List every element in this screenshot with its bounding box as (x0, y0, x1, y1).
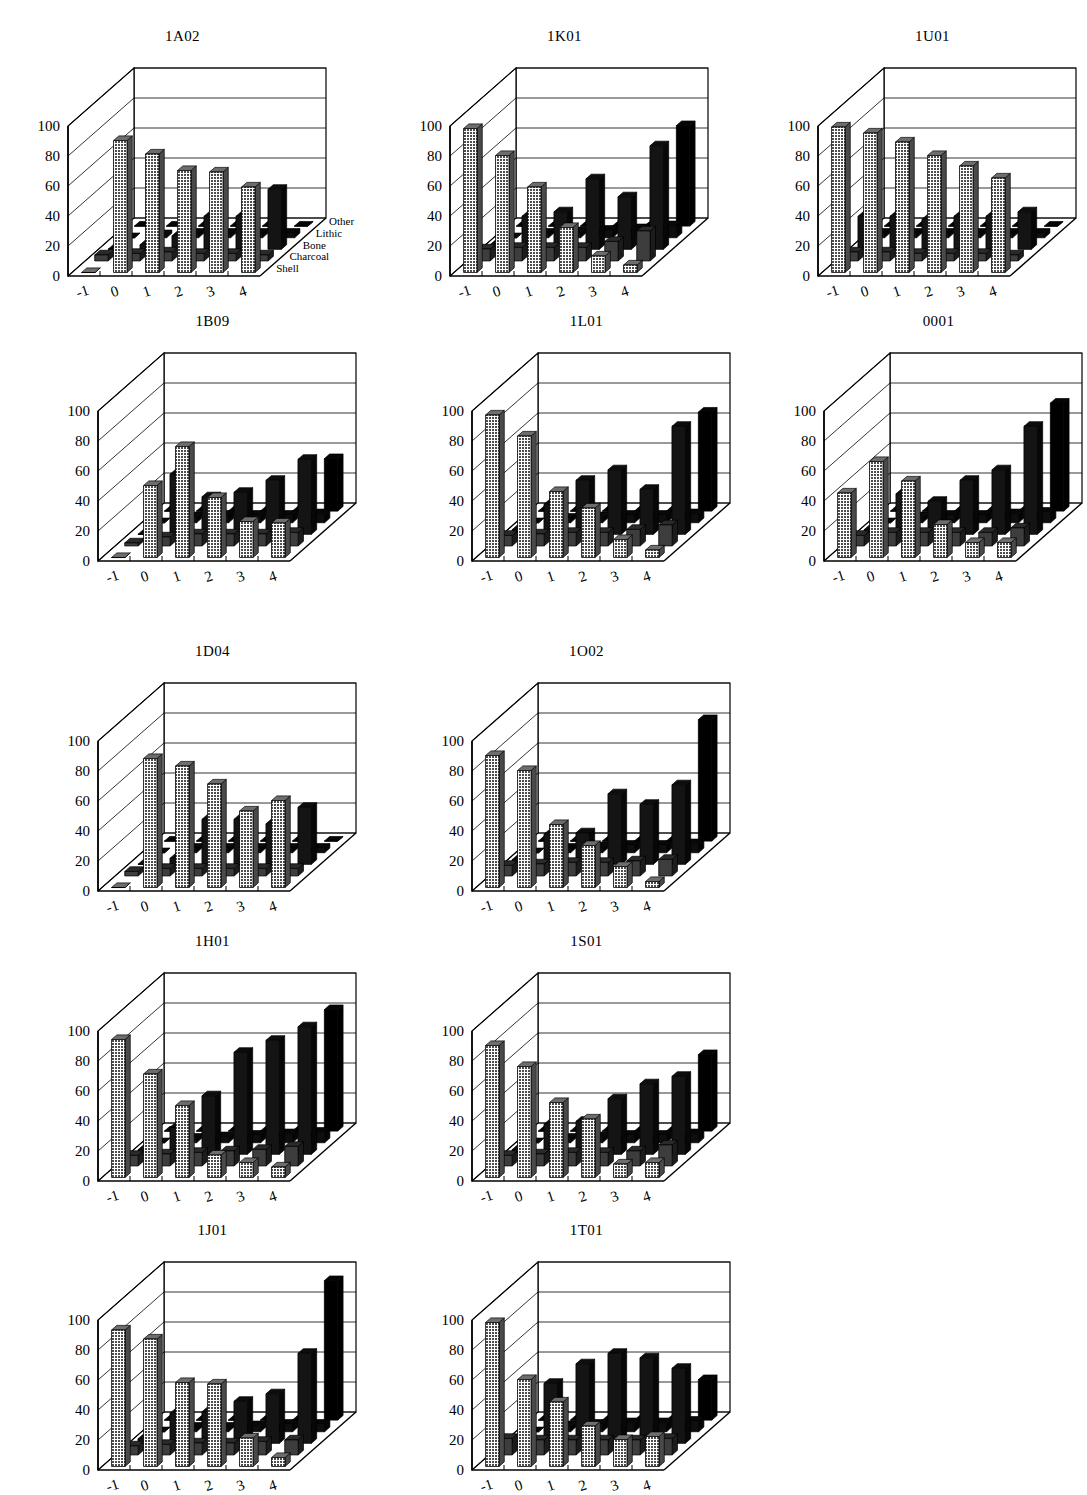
x-axis-ticks: -101234 (478, 1476, 653, 1495)
y-axis-ticks: 020406080100 (442, 733, 465, 899)
svg-text:40: 40 (449, 493, 464, 509)
svg-text:60: 60 (75, 1372, 90, 1388)
svg-text:0: 0 (138, 567, 150, 585)
svg-text:0: 0 (138, 897, 150, 915)
axis-box (68, 68, 326, 276)
svg-text:40: 40 (75, 493, 90, 509)
svg-text:0: 0 (490, 282, 502, 300)
svg-text:4: 4 (266, 567, 279, 585)
series-legend-label: Bone (303, 239, 326, 251)
svg-text:40: 40 (75, 823, 90, 839)
svg-text:20: 20 (795, 238, 810, 254)
series-legend-label: Lithic (316, 227, 342, 239)
chart-title: 1T01 (414, 1222, 759, 1239)
svg-text:40: 40 (449, 1113, 464, 1129)
x-axis-ticks: -101234 (824, 282, 999, 301)
chart-panel: 1K01020406080100-101234 (392, 28, 737, 318)
y-axis-ticks: 020406080100 (442, 1023, 465, 1189)
svg-text:2: 2 (576, 1187, 588, 1205)
series-legend-label: Other (329, 215, 354, 227)
svg-text:80: 80 (75, 1342, 90, 1358)
y-axis-ticks: 020406080100 (68, 1312, 91, 1478)
svg-text:3: 3 (204, 282, 216, 300)
svg-text:-1: -1 (478, 567, 495, 586)
svg-text:40: 40 (801, 493, 816, 509)
y-axis-ticks: 020406080100 (68, 403, 91, 569)
svg-text:2: 2 (554, 282, 566, 300)
svg-text:2: 2 (202, 897, 214, 915)
svg-text:0: 0 (512, 897, 524, 915)
svg-text:1: 1 (896, 567, 908, 585)
svg-text:20: 20 (75, 1432, 90, 1448)
chart-panel: 1O02020406080100-101234 (414, 643, 759, 933)
chart-title: 1J01 (40, 1222, 385, 1239)
svg-text:40: 40 (75, 1113, 90, 1129)
svg-text:100: 100 (68, 1312, 91, 1328)
svg-text:4: 4 (640, 897, 653, 915)
x-axis-ticks: -101234 (104, 897, 279, 916)
chart-title: 1O02 (414, 643, 759, 660)
svg-text:2: 2 (172, 282, 184, 300)
chart-title: 1A02 (10, 28, 355, 45)
svg-text:4: 4 (266, 1476, 279, 1494)
chart-panel: 1U01020406080100-101234 (760, 28, 1087, 318)
svg-text:20: 20 (75, 1143, 90, 1159)
svg-text:80: 80 (795, 148, 810, 164)
y-axis-ticks: 020406080100 (68, 733, 91, 899)
svg-text:60: 60 (45, 178, 60, 194)
chart-panel: 1L01020406080100-101234 (414, 313, 759, 603)
chart-panel: 1A02020406080100-101234OtherLithicBoneCh… (10, 28, 355, 318)
svg-text:2: 2 (576, 567, 588, 585)
svg-text:3: 3 (234, 567, 246, 585)
svg-text:-1: -1 (824, 282, 841, 301)
y-axis-ticks: 020406080100 (794, 403, 817, 569)
svg-text:0: 0 (435, 268, 443, 284)
svg-text:20: 20 (75, 853, 90, 869)
y-axis-ticks: 020406080100 (442, 403, 465, 569)
x-axis-ticks: -101234 (74, 282, 249, 301)
chart-title: 1U01 (760, 28, 1087, 45)
chart-plot-area: 020406080100-101234 (40, 959, 385, 1223)
svg-text:60: 60 (449, 793, 464, 809)
x-axis-ticks: -101234 (830, 567, 1005, 586)
svg-text:4: 4 (236, 282, 249, 300)
svg-text:0: 0 (457, 883, 465, 899)
svg-text:2: 2 (202, 1476, 214, 1494)
svg-text:60: 60 (75, 793, 90, 809)
svg-text:60: 60 (75, 1083, 90, 1099)
x-axis-ticks: -101234 (456, 282, 631, 301)
svg-text:-1: -1 (104, 1476, 121, 1495)
svg-text:3: 3 (608, 897, 620, 915)
svg-text:4: 4 (640, 1476, 653, 1494)
svg-text:60: 60 (449, 463, 464, 479)
svg-text:100: 100 (420, 118, 443, 134)
svg-text:100: 100 (68, 733, 91, 749)
x-axis-ticks: -101234 (478, 897, 653, 916)
svg-text:3: 3 (234, 1187, 246, 1205)
chart-title: 1D04 (40, 643, 385, 660)
svg-text:-1: -1 (478, 1187, 495, 1206)
svg-text:-1: -1 (104, 897, 121, 916)
svg-text:0: 0 (512, 1187, 524, 1205)
svg-text:40: 40 (427, 208, 442, 224)
svg-text:2: 2 (576, 897, 588, 915)
svg-text:20: 20 (449, 523, 464, 539)
x-axis-ticks: -101234 (104, 1187, 279, 1206)
svg-text:3: 3 (954, 282, 966, 300)
svg-text:-1: -1 (104, 1187, 121, 1206)
svg-text:0: 0 (864, 567, 876, 585)
chart-title: 1K01 (392, 28, 737, 45)
svg-text:0: 0 (512, 1476, 524, 1494)
svg-text:20: 20 (427, 238, 442, 254)
svg-text:4: 4 (266, 1187, 279, 1205)
y-axis-ticks: 020406080100 (442, 1312, 465, 1478)
svg-text:2: 2 (922, 282, 934, 300)
svg-text:1: 1 (170, 1476, 182, 1494)
svg-text:4: 4 (266, 897, 279, 915)
svg-text:1: 1 (544, 897, 556, 915)
svg-text:60: 60 (449, 1083, 464, 1099)
svg-text:1: 1 (544, 567, 556, 585)
svg-text:100: 100 (442, 733, 465, 749)
svg-text:1: 1 (170, 1187, 182, 1205)
x-axis-ticks: -101234 (478, 567, 653, 586)
